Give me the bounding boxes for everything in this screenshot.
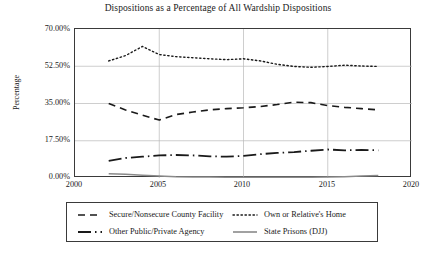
y-tick-label: 52.50% [22, 61, 70, 70]
chart-legend: Secure/Nonsecure County Facility Own or … [66, 202, 378, 242]
x-tick-label: 2010 [222, 180, 262, 189]
legend-swatch-dashed [77, 210, 103, 220]
x-tick-label: 2005 [138, 180, 178, 189]
x-tick-label: 2000 [54, 180, 94, 189]
legend-label: Own or Relative's Home [264, 210, 346, 220]
legend-item-other-public-private-agency: Other Public/Private Agency [77, 227, 204, 237]
plot-area [74, 28, 411, 177]
legend-swatch-dotted [232, 210, 258, 220]
y-tick-label: 17.50% [22, 135, 70, 144]
legend-swatch-dashdot [77, 227, 103, 237]
x-tick-label: 2020 [391, 180, 431, 189]
plot-lines [75, 29, 412, 178]
y-tick-label: 70.00% [22, 24, 70, 33]
y-tick-label: 35.00% [22, 98, 70, 107]
legend-item-state-prisons-djj: State Prisons (DJJ) [232, 227, 327, 237]
x-tick-label: 2015 [307, 180, 347, 189]
legend-item-own-or-relatives-home: Own or Relative's Home [232, 210, 346, 220]
legend-label: State Prisons (DJJ) [264, 227, 327, 237]
legend-swatch-solid [232, 227, 258, 237]
legend-item-secure-nonsecure-county-facility: Secure/Nonsecure County Facility [77, 210, 223, 220]
legend-label: Other Public/Private Agency [109, 227, 204, 237]
y-axis-tick-labels: 70.00% 52.50% 35.00% 17.50% 0.00% [16, 0, 70, 257]
chart-container: Dispositions as a Percentage of All Ward… [0, 0, 436, 257]
legend-label: Secure/Nonsecure County Facility [109, 210, 223, 220]
